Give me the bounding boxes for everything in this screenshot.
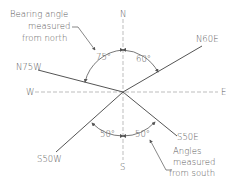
south-note-line-1: Angles [173, 146, 201, 156]
bearing-label-s50e: S50E [177, 132, 199, 142]
bearing-line-s50w [56, 92, 123, 152]
east-label: E [221, 87, 226, 97]
south-note-line-3: from south [169, 168, 215, 178]
south-note-line-2: measured [173, 157, 215, 167]
bearing-line-n60e [123, 46, 202, 92]
bearing-label-n75w: N75W [16, 62, 42, 72]
north-label: N [120, 9, 126, 19]
south-note-leader [150, 140, 172, 170]
south-label: S [120, 162, 125, 172]
bearing-label-s50w: S50W [37, 154, 62, 164]
north-note-leader [72, 27, 95, 50]
north-note-line-1: Bearing angle [10, 9, 68, 19]
north-note-line-2: measured [28, 21, 70, 31]
angle-label-60: 60° [136, 54, 151, 64]
bearing-label-n60e: N60E [196, 34, 219, 44]
bearing-line-n75w [38, 70, 123, 92]
bearing-diagram: N S E W N60E N75W S50W S50E 60° 75° 50° … [0, 0, 235, 189]
angle-label-s50e: 50° [135, 129, 150, 139]
angle-label-s50w: 50° [100, 129, 115, 139]
angle-label-75: 75° [96, 52, 111, 62]
north-note-line-3: from north [22, 33, 67, 43]
west-label: W [26, 87, 34, 97]
